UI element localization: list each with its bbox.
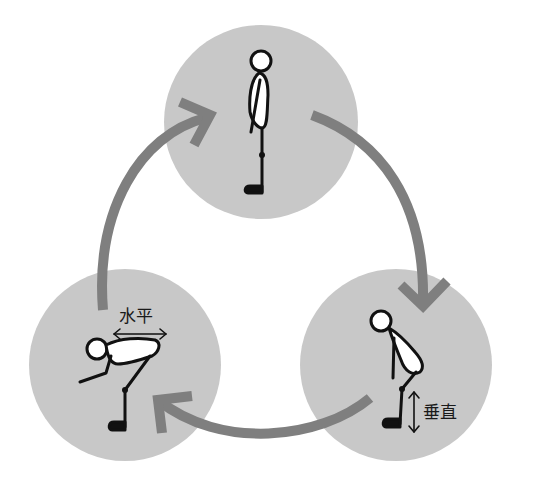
vertical-label: 垂直 [423, 402, 457, 422]
horizontal-label: 水平 [119, 306, 153, 326]
stage-circle-bend-forward [29, 269, 221, 461]
cycle-diagram: 垂直 水平 [0, 0, 533, 499]
stage-circle-bend-knees [300, 269, 492, 461]
